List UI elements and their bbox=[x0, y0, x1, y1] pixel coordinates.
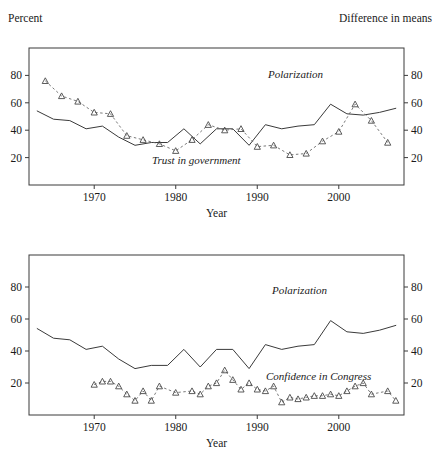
data-marker bbox=[344, 388, 350, 394]
series-dashline-1 bbox=[45, 81, 387, 155]
x-tick-label-1990: 1990 bbox=[246, 191, 269, 203]
plot-frame bbox=[29, 255, 404, 415]
top-panel-left-axis-title: Percent bbox=[8, 12, 42, 24]
y-tick-label-left-40: 40 bbox=[11, 345, 23, 357]
x-tick-label-1970: 1970 bbox=[83, 191, 106, 203]
series-label-polarization-top: Polarization bbox=[267, 68, 324, 80]
data-marker bbox=[124, 133, 130, 139]
data-marker bbox=[189, 388, 195, 394]
figure-root: Percent Difference in means 204060802040… bbox=[0, 0, 438, 465]
data-marker bbox=[156, 383, 162, 389]
x-axis-title: Year bbox=[206, 437, 227, 449]
data-marker bbox=[222, 367, 228, 373]
y-tick-label-right-60: 60 bbox=[411, 97, 423, 109]
y-tick-label-left-40: 40 bbox=[11, 124, 23, 136]
y-tick-label-right-20: 20 bbox=[411, 152, 423, 164]
series-label-confidence: Confidence in Congress bbox=[266, 370, 371, 382]
data-marker bbox=[213, 380, 219, 386]
x-tick-label-2000: 2000 bbox=[327, 421, 350, 433]
data-marker bbox=[352, 383, 358, 389]
x-tick-label-2000: 2000 bbox=[327, 191, 350, 203]
y-tick-label-right-60: 60 bbox=[411, 313, 423, 325]
x-tick-label-1970: 1970 bbox=[83, 421, 106, 433]
y-tick-label-right-20: 20 bbox=[411, 377, 423, 389]
y-tick-label-left-20: 20 bbox=[11, 152, 23, 164]
top-chart-svg: 20406080204060801970198019902000YearPola… bbox=[0, 32, 438, 228]
data-marker bbox=[42, 78, 48, 84]
top-panel-right-axis-title: Difference in means bbox=[339, 12, 432, 24]
series-label-polarization-bottom: Polarization bbox=[271, 284, 328, 296]
y-tick-label-left-20: 20 bbox=[11, 377, 23, 389]
x-axis-title: Year bbox=[206, 207, 227, 219]
y-tick-label-right-80: 80 bbox=[411, 69, 423, 81]
series-label-trust: Trust in government bbox=[152, 154, 242, 166]
y-tick-label-left-80: 80 bbox=[11, 69, 23, 81]
y-tick-label-right-40: 40 bbox=[411, 124, 423, 136]
chart-panel-bottom: 20406080204060801970198019902000YearPola… bbox=[0, 243, 438, 465]
y-tick-label-right-40: 40 bbox=[411, 345, 423, 357]
data-marker bbox=[75, 98, 81, 104]
data-marker bbox=[246, 380, 252, 386]
data-marker bbox=[336, 129, 342, 135]
y-tick-label-left-80: 80 bbox=[11, 281, 23, 293]
x-tick-label-1990: 1990 bbox=[246, 421, 269, 433]
y-tick-label-left-60: 60 bbox=[11, 313, 23, 325]
data-marker bbox=[173, 148, 179, 154]
data-marker bbox=[205, 383, 211, 389]
data-marker bbox=[287, 394, 293, 400]
y-tick-label-right-80: 80 bbox=[411, 281, 423, 293]
x-tick-label-1980: 1980 bbox=[164, 421, 187, 433]
series-line-0 bbox=[37, 321, 396, 369]
chart-panel-top: 20406080204060801970198019902000YearPola… bbox=[0, 32, 438, 228]
data-marker bbox=[279, 399, 285, 405]
bottom-chart-svg: 20406080204060801970198019902000YearPola… bbox=[0, 243, 438, 465]
y-tick-label-left-60: 60 bbox=[11, 97, 23, 109]
x-tick-label-1980: 1980 bbox=[164, 191, 187, 203]
data-marker bbox=[124, 391, 130, 397]
